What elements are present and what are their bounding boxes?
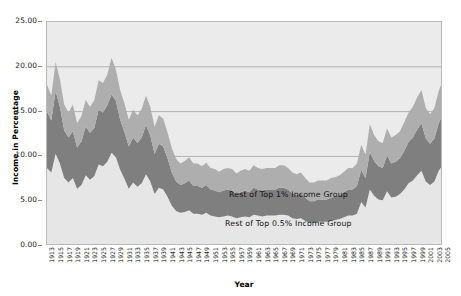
x-tick-label: 1951	[212, 247, 219, 263]
x-tick-label: 1969	[289, 247, 296, 263]
x-tick-label: 1997	[410, 247, 417, 263]
x-tick-label: 1937	[152, 247, 159, 263]
x-tick-label: 1925	[100, 247, 107, 263]
y-axis-title: Income in Percentage	[11, 63, 20, 213]
y-tick-mark	[38, 200, 42, 201]
y-tick-mark	[38, 245, 42, 246]
x-tick-label: 1915	[57, 247, 64, 263]
x-tick-label: 1913	[48, 247, 55, 263]
x-tick-label: 1935	[143, 247, 150, 263]
x-tick-label: 1917	[66, 247, 73, 263]
x-tick-label: 1965	[272, 247, 279, 263]
x-tick-label: 1957	[238, 247, 245, 263]
x-tick-label: 1959	[246, 247, 253, 263]
income-share-area-chart: 0.005.0010.0015.0020.0025.00 Income in P…	[0, 0, 461, 296]
x-tick-label: 1983	[350, 247, 357, 263]
x-tick-label: 1963	[264, 247, 271, 263]
y-tick-mark	[38, 111, 42, 112]
x-tick-label: 2005	[444, 247, 451, 263]
x-tick-label: 1941	[169, 247, 176, 263]
x-tick-label: 1993	[393, 247, 400, 263]
x-tick-label: 1981	[341, 247, 348, 263]
x-axis: 1913191519171919192119231925192719291931…	[46, 247, 442, 281]
y-axis: 0.005.0010.0015.0020.0025.00	[0, 21, 42, 245]
y-tick-mark	[38, 21, 42, 22]
annotation-rest-top-1pct: Rest of Top 1% Income Group	[229, 190, 348, 199]
x-tick-label: 1971	[298, 247, 305, 263]
x-tick-label: 1967	[281, 247, 288, 263]
x-tick-label: 1979	[332, 247, 339, 263]
x-tick-label: 1973	[307, 247, 314, 263]
x-tick-label: 1987	[367, 247, 374, 263]
x-tick-label: 1921	[83, 247, 90, 263]
stacked-area-svg	[47, 22, 442, 245]
y-tick-label: 0.00	[20, 241, 37, 248]
x-tick-label: 1949	[203, 247, 210, 263]
y-tick-mark	[38, 155, 42, 156]
x-tick-label: 1989	[376, 247, 383, 263]
plot-area: Rest of Top 1% Income Group Rest of Top …	[46, 21, 442, 245]
y-tick-label: 5.00	[20, 196, 37, 203]
x-tick-label: 1943	[178, 247, 185, 263]
x-tick-label: 1923	[91, 247, 98, 263]
x-tick-label: 1985	[358, 247, 365, 263]
x-tick-label: 1991	[384, 247, 391, 263]
x-axis-title: Year	[46, 280, 442, 289]
x-tick-label: 1939	[160, 247, 167, 263]
x-tick-label: 1961	[255, 247, 262, 263]
x-tick-label: 2003	[436, 247, 443, 263]
x-tick-label: 1999	[419, 247, 426, 263]
y-tick-mark	[38, 66, 42, 67]
x-tick-label: 1927	[109, 247, 116, 263]
annotation-rest-top-05pct: Rest of Top 0.5% Income Group	[225, 219, 352, 228]
area-series-group	[47, 58, 442, 245]
x-tick-label: 1947	[195, 247, 202, 263]
x-tick-label: 1933	[134, 247, 141, 263]
x-tick-label: 1919	[74, 247, 81, 263]
y-tick-label: 25.00	[15, 17, 37, 24]
x-tick-label: 1975	[315, 247, 322, 263]
x-tick-label: 1977	[324, 247, 331, 263]
x-tick-label: 1929	[117, 247, 124, 263]
x-tick-label: 2001	[427, 247, 434, 263]
x-tick-label: 1953	[221, 247, 228, 263]
x-tick-label: 1945	[186, 247, 193, 263]
x-tick-label: 1995	[401, 247, 408, 263]
x-tick-label: 1931	[126, 247, 133, 263]
x-tick-label: 1955	[229, 247, 236, 263]
